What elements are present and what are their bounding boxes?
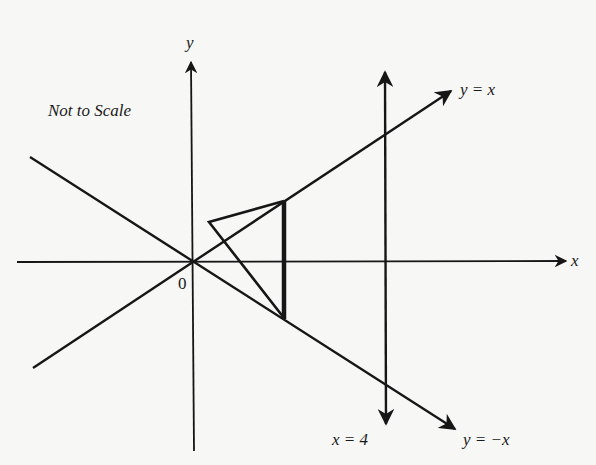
coordinate-diagram: Not to Scale y x 0 y = x y = −x x = 4 [0, 0, 596, 465]
line-y-equals-neg-x [30, 157, 455, 429]
y-axis [191, 62, 194, 451]
x-axis-label: x [570, 251, 579, 270]
label-y-equals-x: y = x [458, 80, 496, 99]
origin-label: 0 [178, 274, 187, 293]
label-y-equals-neg-x: y = −x [461, 430, 510, 449]
line-y-equals-x [33, 91, 451, 368]
line-x-equals-4 [385, 72, 386, 424]
not-to-scale-note: Not to Scale [47, 101, 132, 120]
x-axis [17, 261, 566, 262]
label-x-equals-4: x = 4 [331, 430, 369, 449]
y-axis-label: y [184, 33, 194, 52]
triangle [209, 201, 284, 319]
